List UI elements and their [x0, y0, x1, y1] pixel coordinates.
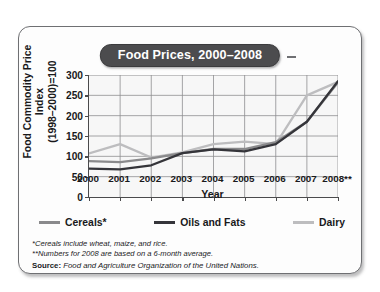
y-tick-label: 300 — [53, 70, 83, 81]
x-tick-label: 2000 — [77, 173, 99, 184]
source-note: Source: Food and Agriculture Organizatio… — [32, 260, 352, 271]
y-axis-title: Food Commodity Price Index (1998–2000)=1… — [22, 34, 59, 169]
legend-label-cereals: Cereals* — [65, 217, 107, 228]
chart-legend: Cereals* Oils and Fats Dairy — [39, 217, 345, 228]
footnote-cereals: *Cereals include wheat, maize, and rice. — [32, 239, 352, 249]
y-tick-label: 250 — [53, 90, 83, 101]
x-tick-label: 2008** — [322, 173, 351, 184]
y-tick-mark — [85, 95, 89, 96]
legend-swatch-cereals — [39, 221, 60, 224]
y-tick-mark — [85, 156, 89, 157]
x-tick-label: 2007 — [295, 173, 317, 184]
legend-swatch-dairy — [293, 221, 314, 224]
x-tick-label: 2005 — [233, 173, 255, 184]
x-tick-label: 2006 — [264, 173, 286, 184]
figure-card: Food Prices, 2000–2008 Food Commodity Pr… — [18, 26, 362, 274]
x-tick-label: 2002 — [139, 173, 161, 184]
chart-title: Food Prices, 2000–2008 — [100, 44, 280, 67]
legend-label-oils-and-fats: Oils and Fats — [180, 217, 245, 228]
legend-swatch-oils-and-fats — [154, 221, 175, 224]
x-tick-mark — [338, 197, 339, 201]
source-label: Source — [32, 261, 58, 270]
y-tick-label: 200 — [53, 110, 83, 121]
legend-item-cereals: Cereals* — [39, 217, 107, 228]
footnote-2008: **Numbers for 2008 are based on a 6-mont… — [32, 249, 352, 259]
y-tick-mark — [85, 136, 89, 137]
x-axis-title: Year — [88, 188, 337, 200]
title-badge-connector-right — [287, 56, 296, 58]
figure-notes: *Cereals include wheat, maize, and rice.… — [32, 239, 352, 271]
x-tick-label: 2003 — [170, 173, 192, 184]
x-tick-label: 2004 — [202, 173, 224, 184]
legend-item-oils-and-fats: Oils and Fats — [154, 217, 245, 228]
y-tick-label: 0 — [53, 192, 83, 203]
y-axis-title-line-2: (1998–2000)=100 — [47, 34, 59, 169]
legend-label-dairy: Dairy — [319, 217, 345, 228]
y-tick-mark — [85, 116, 89, 117]
y-tick-label: 100 — [53, 151, 83, 162]
x-tick-label: 2001 — [108, 173, 130, 184]
y-tick-label: 150 — [53, 131, 83, 142]
source-text: Food and Agriculture Organization of the… — [63, 261, 259, 270]
plot-wrapper: 050100150200250300 Year 2000200120022003… — [78, 49, 340, 201]
y-axis-title-line-1: Food Commodity Price Index — [22, 34, 47, 169]
y-tick-mark — [85, 75, 89, 76]
legend-item-dairy: Dairy — [293, 217, 345, 228]
